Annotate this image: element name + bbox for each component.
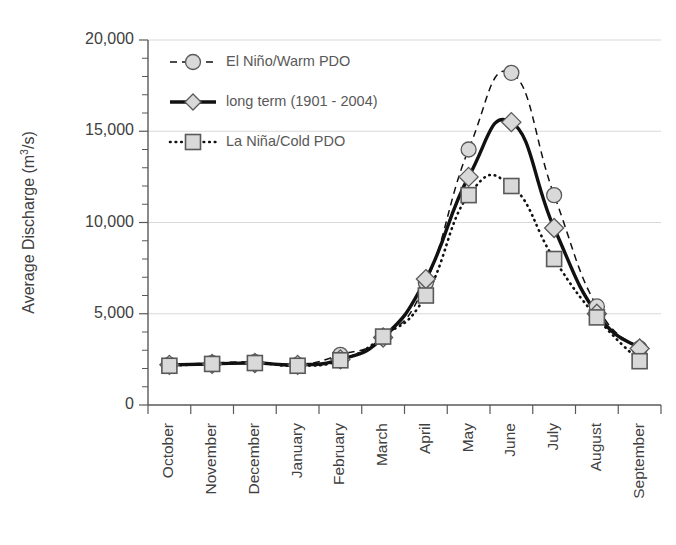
- data-point-circle: [547, 188, 562, 203]
- legend-label: La Niña/Cold PDO: [226, 133, 345, 149]
- data-point-square: [247, 356, 262, 371]
- data-point-square: [589, 310, 604, 325]
- x-tick-label: July: [544, 423, 561, 451]
- chart-container: 05,00010,00015,00020,000 OctoberNovember…: [0, 0, 676, 545]
- data-point-square: [290, 358, 305, 373]
- y-tick-label: 10,000: [85, 213, 134, 230]
- y-axis-title: Average Discharge (m3/s): [18, 131, 37, 314]
- x-tick-label: August: [587, 422, 604, 471]
- data-point-square: [418, 288, 433, 303]
- data-point-square: [547, 252, 562, 267]
- discharge-line-chart: 05,00010,00015,00020,000 OctoberNovember…: [0, 0, 676, 545]
- x-tick-label: May: [459, 423, 476, 453]
- legend-item-1[interactable]: El Niño/Warm PDO: [170, 53, 350, 70]
- legend-marker-circle: [186, 55, 201, 70]
- x-tick-label: December: [245, 423, 262, 495]
- x-tick-label: January: [288, 423, 305, 478]
- data-point-square: [205, 356, 220, 371]
- data-point-square: [333, 353, 348, 368]
- legend-item-3[interactable]: La Niña/Cold PDO: [170, 133, 345, 150]
- x-tick-label: June: [501, 423, 518, 457]
- legend-marker-square: [186, 135, 201, 150]
- x-tick-label: November: [202, 423, 219, 495]
- data-point-circle: [504, 65, 519, 80]
- data-point-square: [376, 329, 391, 344]
- y-tick-label: 5,000: [94, 304, 134, 321]
- legend-label: El Niño/Warm PDO: [226, 53, 350, 69]
- y-tick-label: 15,000: [85, 121, 134, 138]
- data-point-square: [162, 358, 177, 373]
- y-axis-title-text: Average Discharge (m3/s): [18, 131, 37, 314]
- x-tick-label: April: [416, 423, 433, 454]
- data-point-square: [632, 354, 647, 369]
- x-tick-label: September: [630, 423, 647, 499]
- data-point-square: [461, 188, 476, 203]
- x-tick-label: February: [330, 423, 347, 485]
- data-point-square: [504, 179, 519, 194]
- y-tick-label: 20,000: [85, 30, 134, 47]
- x-tick-label: October: [159, 423, 176, 478]
- data-point-circle: [461, 142, 476, 157]
- y-tick-label: 0: [125, 395, 134, 412]
- legend-label: long term (1901 - 2004): [226, 93, 378, 109]
- x-tick-label: March: [373, 423, 390, 466]
